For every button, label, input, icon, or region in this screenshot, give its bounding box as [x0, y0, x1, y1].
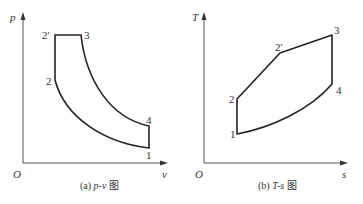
ts-point-1: 1: [230, 128, 236, 140]
ts-y-axis-arrow-icon: [202, 12, 207, 20]
ts-cycle-path: [237, 35, 332, 134]
ts-point-4: 4: [336, 84, 342, 96]
ts-diagram: T s O 2′ 3 2 4 1 (b) T-s 图: [192, 11, 348, 192]
pv-diagram: p v O 2′ 3 2 4 1 (a) p-v 图: [9, 11, 168, 192]
ts-caption: (b) T-s 图: [258, 180, 297, 192]
ts-point-2: 2: [229, 93, 235, 105]
pv-x-label: v: [162, 168, 167, 180]
ts-y-label: T: [192, 11, 199, 23]
pv-point-1: 1: [146, 149, 152, 161]
pv-point-4: 4: [146, 114, 152, 126]
pv-point-2: 2: [46, 75, 52, 87]
pv-origin-label: O: [13, 168, 21, 180]
ts-point-2prime: 2′: [275, 41, 283, 53]
pv-cycle-path: [55, 35, 149, 148]
pv-caption: (a) p-v 图: [80, 180, 119, 192]
cycle-diagrams: p v O 2′ 3 2 4 1 (a) p-v 图 T s O 2′ 3 2 …: [0, 0, 363, 204]
ts-point-3: 3: [334, 24, 340, 36]
ts-origin-label: O: [195, 168, 203, 180]
pv-x-axis-arrow-icon: [160, 161, 168, 166]
pv-y-axis-arrow-icon: [21, 12, 26, 20]
pv-point-3: 3: [84, 29, 90, 41]
pv-y-label: p: [9, 11, 16, 23]
ts-x-label: s: [342, 168, 346, 180]
pv-point-2prime: 2′: [42, 29, 50, 41]
ts-x-axis-arrow-icon: [340, 161, 348, 166]
